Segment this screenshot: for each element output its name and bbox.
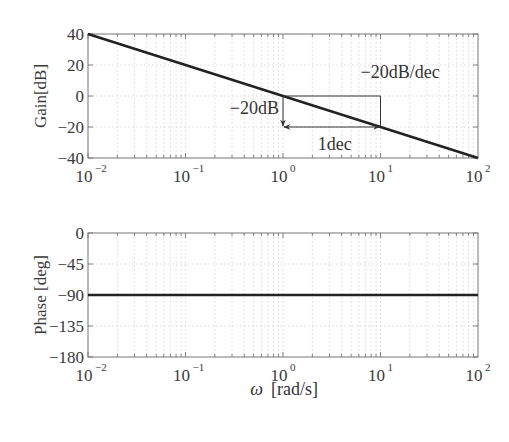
y-tick-label: −45 bbox=[57, 255, 84, 274]
x-tick-label: 10 bbox=[368, 167, 385, 186]
x-tick-label: 10 bbox=[466, 366, 483, 385]
x-tick-label: 10 bbox=[76, 167, 93, 186]
gain-panel: 40200−20−4010−210−1100101102Gain[dB]−20d… bbox=[31, 25, 491, 186]
x-tick-label: 10 bbox=[466, 167, 483, 186]
y-tick-label: −90 bbox=[57, 286, 84, 305]
x-tick-label: 10 bbox=[271, 167, 288, 186]
y-tick-label: −20 bbox=[57, 118, 84, 137]
phase-panel: 0−45−90−135−18010−210−1100101102Phase [d… bbox=[31, 224, 491, 399]
decade-label: 1dec bbox=[318, 134, 352, 154]
slope-label: −20dB/dec bbox=[361, 62, 440, 82]
bode-plot: 40200−20−4010−210−1100101102Gain[dB]−20d… bbox=[0, 0, 509, 442]
y-tick-label: 0 bbox=[76, 224, 85, 243]
x-tick-exponent: −2 bbox=[95, 162, 107, 174]
x-tick-label: 10 bbox=[173, 366, 190, 385]
x-tick-exponent: −1 bbox=[193, 162, 205, 174]
x-tick-label: 10 bbox=[173, 167, 190, 186]
x-tick-label: 10 bbox=[368, 366, 385, 385]
drop-label: −20dB bbox=[230, 98, 279, 118]
x-tick-exponent: 0 bbox=[290, 162, 296, 174]
x-axis-label-unit: [rad/s] bbox=[271, 379, 318, 399]
y-tick-label: 40 bbox=[67, 25, 84, 44]
y-tick-label: 0 bbox=[76, 87, 85, 106]
y-axis-label: Phase [deg] bbox=[31, 255, 50, 335]
y-tick-label: −135 bbox=[49, 317, 84, 336]
x-axis-label-symbol: ω bbox=[250, 379, 263, 399]
x-tick-exponent: −2 bbox=[95, 361, 107, 373]
y-axis-label: Gain[dB] bbox=[31, 64, 50, 128]
x-tick-exponent: 2 bbox=[485, 162, 491, 174]
y-tick-label: −180 bbox=[49, 348, 84, 367]
x-tick-exponent: 0 bbox=[290, 361, 296, 373]
x-tick-exponent: −1 bbox=[193, 361, 205, 373]
y-tick-label: −40 bbox=[57, 149, 84, 168]
y-tick-label: 20 bbox=[67, 56, 84, 75]
x-tick-exponent: 2 bbox=[485, 361, 491, 373]
x-tick-exponent: 1 bbox=[388, 162, 394, 174]
x-tick-label: 10 bbox=[76, 366, 93, 385]
x-tick-exponent: 1 bbox=[388, 361, 394, 373]
